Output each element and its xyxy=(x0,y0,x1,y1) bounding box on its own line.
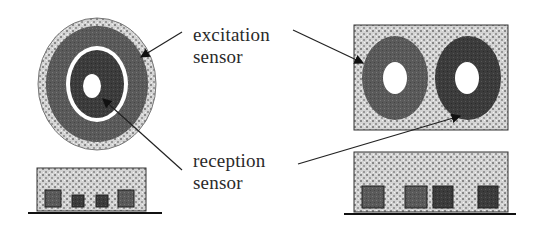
right-element-1 xyxy=(362,186,384,208)
right-cross-section xyxy=(344,152,516,214)
left-element-4 xyxy=(118,190,134,207)
right-element-4 xyxy=(478,186,498,208)
excitation-sensor-label: excitation sensor xyxy=(193,24,270,68)
right-side-by-side-sensor xyxy=(354,25,508,130)
right-element-3 xyxy=(433,186,453,208)
reception-label-line-2: sensor xyxy=(193,172,265,194)
left-element-1 xyxy=(45,190,61,207)
excitation-label-line-1: excitation xyxy=(193,24,270,46)
excitation-label-line-2: sensor xyxy=(193,46,270,68)
excitation-right-arrow xyxy=(293,30,363,63)
right-element-2 xyxy=(405,186,427,208)
right-reception-hole xyxy=(455,62,479,94)
left-cross-section xyxy=(28,168,162,213)
reception-sensor-label: reception sensor xyxy=(193,150,265,194)
left-center-hole xyxy=(83,74,101,98)
left-element-3 xyxy=(96,195,108,207)
left-element-2 xyxy=(72,195,84,207)
reception-label-line-1: reception xyxy=(193,150,265,172)
sensor-diagram xyxy=(0,0,540,233)
right-excitation-hole xyxy=(383,62,407,94)
excitation-left-arrow xyxy=(141,32,182,57)
